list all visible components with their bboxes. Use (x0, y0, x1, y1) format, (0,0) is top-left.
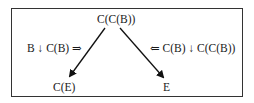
node-top: C(C(B)) (97, 13, 135, 25)
edge-label-right: ⇐ C(B) ↓ C(C(B)) (150, 42, 235, 54)
edge-label-left: B ↓ C(B) ⇒ (27, 42, 82, 54)
node-bottom-left: C(E) (53, 81, 75, 93)
node-bottom-right: E (163, 81, 170, 93)
